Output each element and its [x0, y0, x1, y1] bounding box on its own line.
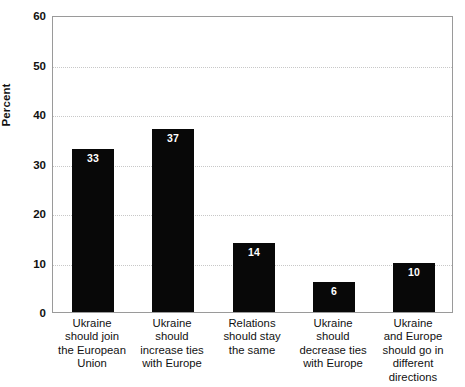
- x-axis-category-line: should join: [52, 330, 132, 343]
- y-tick-label: 0: [8, 307, 52, 319]
- x-axis-category-line: Ukraine: [132, 317, 212, 330]
- x-axis-category-line: the European: [52, 344, 132, 357]
- y-tick-label: 60: [8, 10, 52, 22]
- y-tick-label: 50: [8, 60, 52, 72]
- y-tick-label: 30: [8, 159, 52, 171]
- x-axis-category-label: Ukraineshoulddecrease tieswith Europe: [293, 317, 373, 371]
- gridline: [53, 67, 452, 68]
- x-axis-category-line: with Europe: [132, 357, 212, 370]
- x-axis-category-line: the same: [212, 344, 292, 357]
- bar-value-label: 6: [313, 285, 355, 297]
- x-axis-category-label: Ukraineshould jointhe EuropeanUnion: [52, 317, 132, 371]
- x-axis-labels: Ukraineshould jointhe EuropeanUnionUkrai…: [52, 317, 453, 387]
- x-axis-category-line: different: [373, 357, 453, 370]
- bar[interactable]: 37: [152, 129, 194, 312]
- x-axis-category-line: Ukraine: [293, 317, 373, 330]
- x-axis-category-line: should: [293, 330, 373, 343]
- x-axis-category-line: decrease ties: [293, 344, 373, 357]
- x-axis-category-line: Union: [52, 357, 132, 370]
- bar[interactable]: 10: [393, 263, 435, 313]
- x-axis-category-line: with Europe: [293, 357, 373, 370]
- bar-value-label: 33: [72, 152, 114, 164]
- plot-area: 333714610: [52, 16, 453, 313]
- bar-value-label: 14: [233, 246, 275, 258]
- x-axis-category-line: should go in: [373, 344, 453, 357]
- x-axis-category-line: Relations: [212, 317, 292, 330]
- bar-value-label: 37: [152, 132, 194, 144]
- x-axis-category-line: directions: [373, 371, 453, 384]
- x-axis-category-line: should stay: [212, 330, 292, 343]
- bar-chart: Percent 0102030405060 333714610 Ukraines…: [0, 0, 465, 387]
- x-axis-category-label: Ukraineand Europeshould go indifferentdi…: [373, 317, 453, 384]
- y-axis-ticks: 0102030405060: [0, 16, 52, 313]
- gridline: [53, 116, 452, 117]
- x-axis-category-line: increase ties: [132, 344, 212, 357]
- y-tick-label: 10: [8, 258, 52, 270]
- x-axis-category-label: Ukraineshouldincrease tieswith Europe: [132, 317, 212, 371]
- x-axis-category-line: Ukraine: [373, 317, 453, 330]
- bar-value-label: 10: [393, 266, 435, 278]
- x-axis-category-line: should: [132, 330, 212, 343]
- y-tick-label: 20: [8, 208, 52, 220]
- bar[interactable]: 33: [72, 149, 114, 312]
- bar[interactable]: 14: [233, 243, 275, 312]
- x-axis-category-line: Ukraine: [52, 317, 132, 330]
- x-axis-category-line: and Europe: [373, 330, 453, 343]
- y-tick-label: 40: [8, 109, 52, 121]
- x-axis-category-label: Relationsshould staythe same: [212, 317, 292, 357]
- bar[interactable]: 6: [313, 282, 355, 312]
